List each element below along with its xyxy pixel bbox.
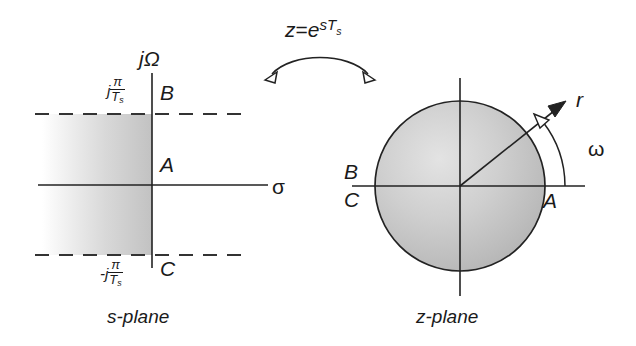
s-plane-lower-tick-numerator: π	[108, 258, 122, 273]
s-plane-lower-tick-j: -j	[100, 265, 108, 282]
z-plane-point-A-label: A	[543, 190, 557, 211]
z-plane-radius-label: r	[576, 89, 583, 110]
z-plane-group	[352, 78, 585, 296]
s-plane-point-A-label: A	[160, 154, 174, 175]
s-plane-upper-tick-fraction: πTs	[110, 75, 124, 105]
z-plane-angle-label: ω	[588, 138, 604, 159]
z-plane-point-B-text: B	[344, 160, 358, 183]
mapping-equation-lhs: z	[285, 18, 296, 41]
s-plane-upper-tick-numerator: π	[110, 75, 124, 90]
s-plane-point-B-label: B	[160, 82, 174, 103]
s-plane-point-B-text: B	[160, 81, 174, 104]
z-plane-point-A-text: A	[543, 189, 557, 212]
s-plane-imaginary-axis-label: jΩ	[139, 48, 160, 69]
z-plane-angle-arc	[543, 122, 565, 186]
s-plane-real-axis-label-text: σ	[272, 175, 285, 198]
z-plane-name-text: z-plane	[416, 306, 478, 327]
mapping-arrowhead-right-icon	[363, 72, 375, 83]
z-plane-point-C-label: C	[344, 189, 359, 210]
z-plane-point-B-label: B	[344, 161, 358, 182]
z-plane-point-C-text: C	[344, 188, 359, 211]
s-plane-name-text: s-plane	[107, 306, 169, 327]
s-plane-point-C-label: C	[160, 258, 175, 279]
s-plane-upper-tick-denominator-sub: s	[119, 95, 123, 105]
s-plane-name: s-plane	[107, 307, 169, 326]
mapping-arrow-curve	[272, 58, 368, 75]
s-plane-lower-tick-denominator: Ts	[108, 273, 122, 289]
figure-root: z=esTs jΩ jπTs B A C -jπTs σ s-plane B C…	[0, 0, 636, 346]
s-plane-point-A-text: A	[160, 153, 174, 176]
s-plane-group	[35, 73, 268, 268]
figure-svg	[0, 0, 636, 346]
mapping-equation-equals: =	[296, 18, 308, 41]
mapping-equation-exponent-T-sub: s	[336, 25, 341, 37]
s-plane-upper-tick-denominator: Ts	[110, 90, 124, 106]
mapping-arrow-group	[265, 58, 375, 84]
s-plane-point-C-text: C	[160, 257, 175, 280]
s-plane-upper-tick-label: jπTs	[107, 75, 125, 105]
s-plane-real-axis-label: σ	[272, 176, 285, 197]
mapping-equation-exponent-s: s	[319, 16, 327, 33]
mapping-equation-base: e	[308, 18, 320, 41]
z-plane-angle-label-text: ω	[588, 137, 604, 160]
mapping-equation-exponent-T: T	[327, 16, 336, 33]
s-plane-axis-label-text: jΩ	[139, 47, 160, 70]
s-plane-lower-tick-fraction: πTs	[108, 258, 122, 288]
mapping-equation: z=esTs	[285, 17, 342, 40]
z-plane-radius-label-text: r	[576, 88, 583, 111]
z-plane-name: z-plane	[416, 307, 478, 326]
mapping-arrowhead-left-icon	[265, 72, 277, 83]
s-plane-lower-tick-label: -jπTs	[100, 258, 123, 288]
s-plane-lower-tick-denominator-sub: s	[117, 278, 121, 288]
